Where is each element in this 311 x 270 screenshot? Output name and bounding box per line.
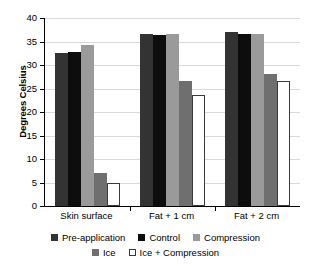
- bar: [153, 35, 166, 206]
- y-axis-tick-label: 35: [26, 37, 37, 47]
- legend-label: Ice + Compression: [140, 247, 219, 258]
- bar: [68, 52, 81, 206]
- plot-area: 4035302520151050: [44, 18, 300, 207]
- bar: [55, 53, 68, 206]
- bar: [140, 34, 153, 206]
- bar: [264, 74, 277, 206]
- y-axis-tick-label: 5: [32, 178, 37, 188]
- legend-label: Control: [149, 232, 180, 243]
- legend-row-primary: Pre-applicationControlCompression: [0, 232, 311, 243]
- bar-group: [130, 18, 215, 206]
- legend-label: Pre-application: [62, 232, 125, 243]
- legend-swatch-icon: [92, 249, 99, 256]
- y-axis-tick-label: 40: [26, 13, 37, 23]
- y-axis-tick-label: 0: [32, 201, 37, 211]
- y-axis-tick: [40, 206, 45, 207]
- legend-item[interactable]: Ice + Compression: [129, 247, 219, 258]
- y-axis-tick-label: 15: [26, 131, 37, 141]
- bar: [277, 81, 290, 206]
- legend-swatch-icon: [138, 234, 145, 241]
- y-axis-tick-label: 30: [26, 60, 37, 70]
- bar-group: [215, 18, 300, 206]
- bar-groups: [45, 18, 300, 206]
- bar-group: [45, 18, 130, 206]
- bar: [238, 34, 251, 206]
- bar: [81, 45, 94, 206]
- legend-row-secondary: IceIce + Compression: [0, 247, 311, 258]
- legend-swatch-icon: [129, 249, 136, 256]
- bar: [166, 34, 179, 206]
- bar-chart: Degrees Celsius 4035302520151050 Skin su…: [0, 0, 311, 270]
- bar: [179, 81, 192, 206]
- bar: [251, 34, 264, 206]
- legend-label: Compression: [204, 232, 260, 243]
- bar: [192, 95, 205, 206]
- bar: [94, 173, 107, 206]
- y-axis-tick-label: 20: [26, 107, 37, 117]
- x-axis-labels: Skin surfaceFat + 1 cmFat + 2 cm: [44, 210, 299, 221]
- x-axis-label: Skin surface: [44, 210, 129, 221]
- legend-swatch-icon: [193, 234, 200, 241]
- x-axis-label: Fat + 2 cm: [214, 210, 299, 221]
- bar: [107, 183, 120, 206]
- legend-label: Ice: [103, 247, 116, 258]
- legend: Pre-applicationControlCompression IceIce…: [0, 232, 311, 262]
- bar: [225, 32, 238, 206]
- legend-item[interactable]: Pre-application: [51, 232, 125, 243]
- y-axis-title: Degrees Celsius: [17, 32, 28, 172]
- legend-item[interactable]: Compression: [193, 232, 260, 243]
- legend-item[interactable]: Control: [138, 232, 180, 243]
- x-axis-label: Fat + 1 cm: [129, 210, 214, 221]
- y-axis-tick-label: 10: [26, 154, 37, 164]
- y-axis-tick-label: 25: [26, 84, 37, 94]
- legend-item[interactable]: Ice: [92, 247, 116, 258]
- legend-swatch-icon: [51, 234, 58, 241]
